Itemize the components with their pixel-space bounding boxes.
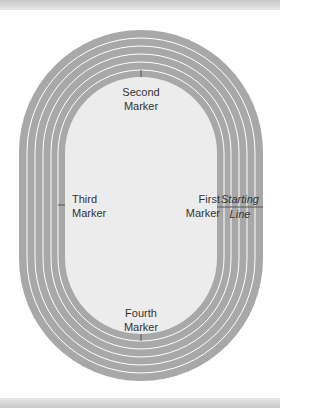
fourth-marker-label: FourthMarker (111, 306, 171, 334)
second-marker-label: SecondMarker (111, 85, 171, 113)
starting-line-label: StartingLine (217, 192, 263, 221)
first-marker-label: FirstMarker (170, 192, 220, 220)
third-marker-label: ThirdMarker (72, 192, 122, 220)
